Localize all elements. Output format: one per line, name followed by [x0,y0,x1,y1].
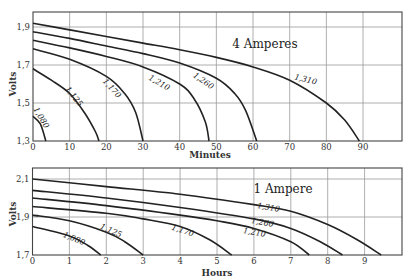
x-tick-label: 7 [288,256,293,266]
curve-label: 1,210 [147,73,171,92]
discharge-curve-1125 [33,215,144,255]
x-tick-label: 30 [138,142,149,152]
x-tick-label: 10 [64,142,75,152]
top-y-axis-label: Volts [8,72,18,98]
curve-label: 1,260 [191,71,215,92]
bottom-x-axis-label: Hours [202,268,233,278]
y-tick-label: 1,3 [16,136,30,146]
curve-label: 1,310 [256,201,280,214]
x-tick-label: 60 [248,142,259,152]
bottom-chart-1-ampere: 01234567891,71,92,11,3101,2601,2101,1701… [16,168,402,266]
x-tick-label: 3 [140,256,145,266]
x-tick-label: 2 [104,256,109,266]
curve-label: 1,170 [170,223,195,239]
x-tick-label: 8 [325,256,330,266]
x-tick-label: 80 [321,142,332,152]
curve-label: 1,210 [242,226,266,239]
y-tick-label: 1,7 [16,60,30,70]
curve-label: 1,125 [99,222,124,240]
x-tick-label: 40 [174,142,185,152]
discharge-curve-1260 [33,32,257,141]
curve-label: 1,080 [62,230,87,247]
x-tick-label: 6 [251,256,256,266]
y-tick-label: 2,1 [16,174,30,184]
top-chart-title: 4 Amperes [232,37,297,51]
x-tick-label: 20 [101,142,112,152]
top-x-axis-label: Minutes [189,150,230,160]
discharge-curve-1170 [33,49,143,141]
discharge-curves-figure: 01020304050607080901,31,51,71,91,3101,26… [0,0,412,280]
x-tick-label: 9 [362,256,367,266]
x-tick-label: 4 [177,256,182,266]
y-tick-label: 1,9 [16,22,30,32]
bottom-chart-title: 1 Ampere [253,182,312,196]
x-tick-label: 90 [358,142,369,152]
curve-label: 1,125 [63,85,84,109]
x-tick-label: 5 [214,256,219,266]
top-chart-4-amperes: 01020304050607080901,31,51,71,91,3101,26… [16,12,402,152]
x-tick-label: 70 [284,142,295,152]
y-tick-label: 1,5 [16,98,30,108]
x-tick-label: 0 [30,142,35,152]
bottom-y-axis-label: Volts [8,202,18,228]
x-tick-label: 0 [30,256,35,266]
y-tick-label: 1,7 [16,250,30,260]
x-tick-label: 1 [67,256,72,266]
